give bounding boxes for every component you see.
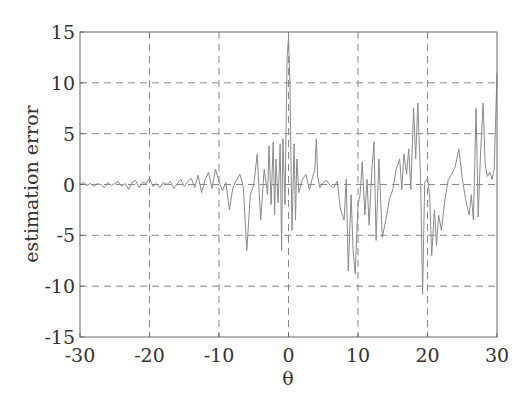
y-tick-label: -5 — [56, 224, 75, 246]
y-tick-label: 0 — [63, 174, 75, 196]
chart: -30-20-100102030 -15-10-5051015 θ estima… — [0, 0, 527, 401]
x-tick-label: -20 — [134, 344, 165, 366]
y-axis-label: estimation error — [20, 104, 42, 262]
y-tick-label: -10 — [44, 275, 75, 297]
y-tick-label: 5 — [63, 123, 75, 145]
y-tick-labels: -15-10-5051015 — [44, 21, 75, 348]
x-tick-label: 20 — [415, 344, 439, 366]
x-tick-labels: -30-20-100102030 — [65, 344, 509, 366]
x-tick-label: 0 — [282, 344, 294, 366]
x-tick-label: -10 — [204, 344, 235, 366]
x-tick-label: 30 — [485, 344, 509, 366]
x-axis-label: θ — [282, 367, 293, 389]
y-tick-label: 10 — [51, 72, 75, 94]
y-tick-label: -15 — [44, 326, 75, 348]
y-tick-label: 15 — [51, 21, 75, 43]
x-tick-label: 10 — [346, 344, 370, 366]
